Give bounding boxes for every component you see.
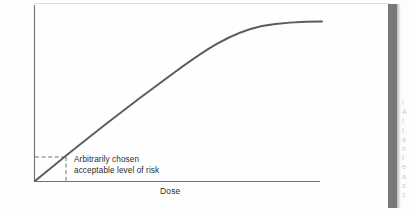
cropped-neighbor-text-sliver: lAttanteasc <box>402 98 416 202</box>
x-axis-title: Dose <box>160 186 180 196</box>
dose-response-plot <box>0 0 416 214</box>
acceptable-risk-annotation: Arbitrarily chosen acceptable level of r… <box>74 155 159 176</box>
page-gutter-shadow-bar <box>388 4 397 208</box>
page-gutter-shadow-fade <box>397 4 401 208</box>
y-axis-title: Number of animals affected <box>0 110 72 124</box>
figure-root: Number of animals affected Dose Arbitrar… <box>0 0 416 214</box>
annotation-line-1: Arbitrarily chosen <box>74 155 159 166</box>
annotation-line-2: acceptable level of risk <box>74 166 159 177</box>
